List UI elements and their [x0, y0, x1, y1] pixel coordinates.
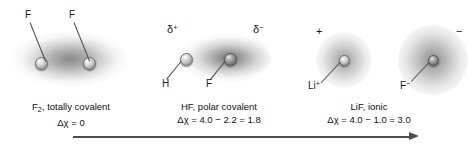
caption-f2-line2: Δχ = 0: [0, 117, 142, 130]
leader-line-f2-left: [30, 22, 47, 61]
atom-label-f2-left: F: [25, 10, 31, 20]
atom-sphere-fluoride-ion: [428, 55, 439, 66]
leader-line-hf-fluorine: [210, 61, 225, 80]
caption-lif-line2: Δχ = 4.0 − 1.0 = 3.0: [296, 114, 442, 127]
atom-label-hf-hydrogen: H: [162, 79, 169, 89]
caption-lif: LiF, ionic Δχ = 4.0 − 1.0 = 3.0: [296, 101, 442, 126]
electron-cloud-hf: [161, 31, 271, 85]
atom-label-fluoride-ion: F−: [400, 80, 410, 91]
atom-sphere-hf-hydrogen: [180, 53, 193, 66]
partial-charge-hf-positive: δ+: [167, 24, 177, 35]
charge-label-fluoride-negative: −: [456, 26, 462, 37]
caption-f2-line1: F2, totally covalent: [0, 101, 142, 117]
atom-sphere-hf-fluorine: [224, 53, 237, 66]
bonding-continuum-figure: F F F2, totally covalent Δχ = 0 H F δ+ δ…: [0, 0, 475, 150]
leader-line-hf-hydrogen: [166, 61, 181, 80]
atom-sphere-f2-left: [35, 57, 48, 70]
atom-label-hf-fluorine: F: [206, 79, 212, 89]
caption-f2: F2, totally covalent Δχ = 0: [0, 101, 142, 129]
caption-hf-line2: Δχ = 4.0 − 2.2 = 1.8: [149, 114, 289, 127]
bonding-continuum-arrow-shaft: [73, 136, 411, 138]
atom-label-fluoride-ion-sign: −: [406, 79, 410, 88]
caption-lif-line1: LiF, ionic: [296, 101, 442, 114]
leader-line-fluoride-ion: [411, 62, 429, 82]
leader-line-lithium-ion: [321, 62, 341, 83]
atom-sphere-lithium-ion: [339, 55, 350, 66]
caption-f2-bondtype: , totally covalent: [42, 101, 110, 112]
electron-cloud-f2: [3, 27, 137, 91]
atom-label-lithium-ion: Li+: [308, 80, 320, 91]
partial-charge-hf-negative-sign: −: [259, 23, 263, 32]
bonding-continuum-arrow-head-icon: [409, 132, 419, 140]
atom-label-lithium-ion-sign: +: [316, 79, 320, 88]
atom-label-f2-right: F: [69, 10, 75, 20]
caption-hf-line1: HF, polar covalent: [149, 101, 289, 114]
caption-hf: HF, polar covalent Δχ = 4.0 − 2.2 = 1.8: [149, 101, 289, 126]
leader-line-f2-right: [74, 22, 91, 61]
partial-charge-hf-negative: δ−: [253, 24, 263, 35]
partial-charge-hf-positive-sign: +: [173, 23, 177, 32]
charge-label-lithium-positive: +: [316, 26, 322, 37]
